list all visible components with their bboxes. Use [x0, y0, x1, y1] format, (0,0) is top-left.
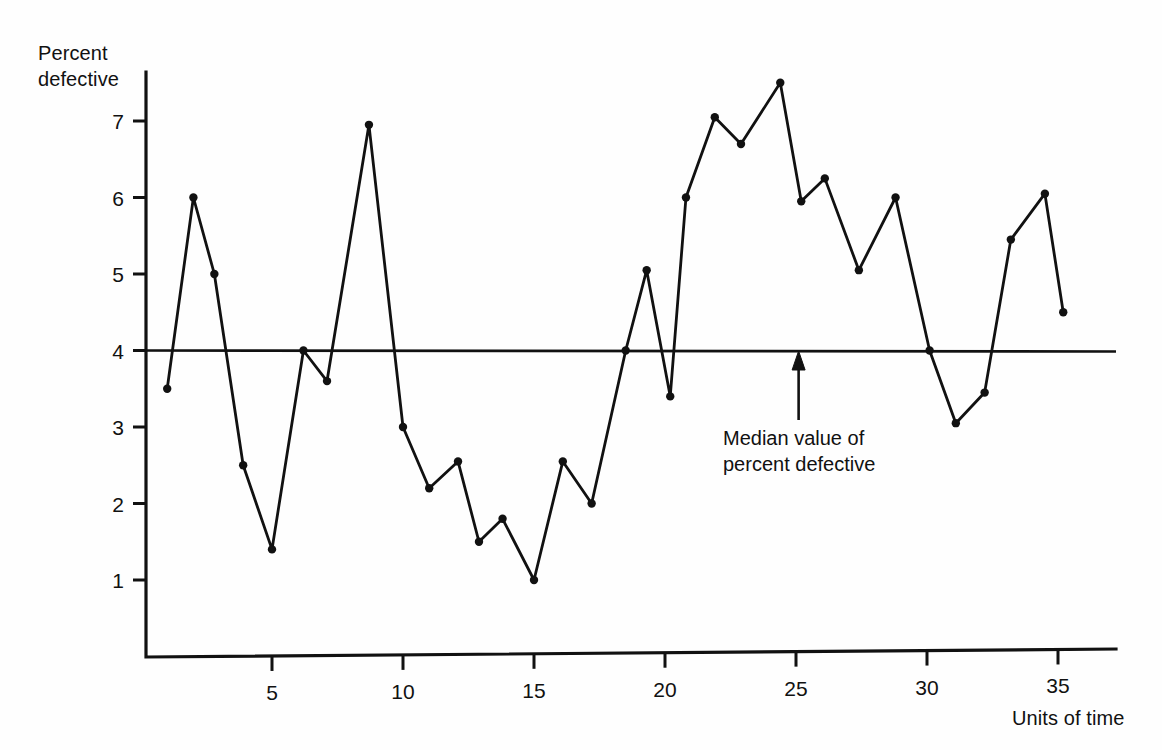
- data-point-marker: [189, 193, 197, 201]
- data-point-marker: [475, 538, 483, 546]
- data-point-marker: [1059, 308, 1067, 316]
- data-point-marker: [622, 346, 630, 354]
- x-tick-label: 20: [653, 678, 676, 701]
- x-tick-label: 15: [522, 679, 545, 702]
- data-point-marker: [399, 423, 407, 431]
- data-point-marker: [980, 388, 988, 396]
- chart-axes: [146, 72, 1116, 657]
- data-point-markers: [163, 79, 1067, 585]
- median-annotation-arrow: [792, 351, 805, 420]
- data-point-marker: [1041, 189, 1049, 197]
- y-tick-label: 4: [112, 340, 124, 363]
- data-point-marker: [821, 174, 829, 182]
- data-point-marker: [530, 576, 538, 584]
- line-chart-plot: 12345675101520253035: [0, 0, 1162, 750]
- data-point-marker: [163, 385, 171, 393]
- data-point-marker: [365, 121, 373, 129]
- data-point-marker: [454, 457, 462, 465]
- data-series-line: [167, 83, 1063, 580]
- chart-tick-labels: 12345675101520253035: [112, 110, 1069, 704]
- y-tick-label: 3: [112, 416, 124, 439]
- data-point-marker: [210, 270, 218, 278]
- x-tick-label: 5: [266, 681, 278, 704]
- data-point-marker: [666, 392, 674, 400]
- data-point-marker: [299, 346, 307, 354]
- data-point-marker: [891, 193, 899, 201]
- y-tick-label: 6: [112, 187, 124, 210]
- data-point-marker: [682, 193, 690, 201]
- data-point-marker: [952, 419, 960, 427]
- data-point-marker: [797, 197, 805, 205]
- data-point-marker: [855, 266, 863, 274]
- chart-figure: Percentdefective Units of time Median va…: [0, 0, 1162, 750]
- data-point-marker: [239, 461, 247, 469]
- data-point-marker: [559, 457, 567, 465]
- data-point-marker: [587, 499, 595, 507]
- data-point-marker: [498, 515, 506, 523]
- x-tick-label: 10: [391, 680, 414, 703]
- data-point-marker: [323, 377, 331, 385]
- y-tick-label: 7: [112, 110, 124, 133]
- data-point-marker: [642, 266, 650, 274]
- data-point-marker: [925, 346, 933, 354]
- x-tick-label: 25: [784, 677, 807, 700]
- y-tick-label: 2: [112, 493, 124, 516]
- y-tick-label: 1: [112, 569, 124, 592]
- data-point-marker: [711, 113, 719, 121]
- data-point-marker: [268, 545, 276, 553]
- data-point-marker: [1007, 235, 1015, 243]
- data-point-marker: [737, 140, 745, 148]
- x-tick-label: 30: [915, 676, 938, 699]
- x-tick-label: 35: [1046, 674, 1069, 697]
- data-point-marker: [425, 484, 433, 492]
- data-point-marker: [776, 79, 784, 87]
- chart-tick-marks: [133, 121, 1058, 671]
- y-tick-label: 5: [112, 263, 124, 286]
